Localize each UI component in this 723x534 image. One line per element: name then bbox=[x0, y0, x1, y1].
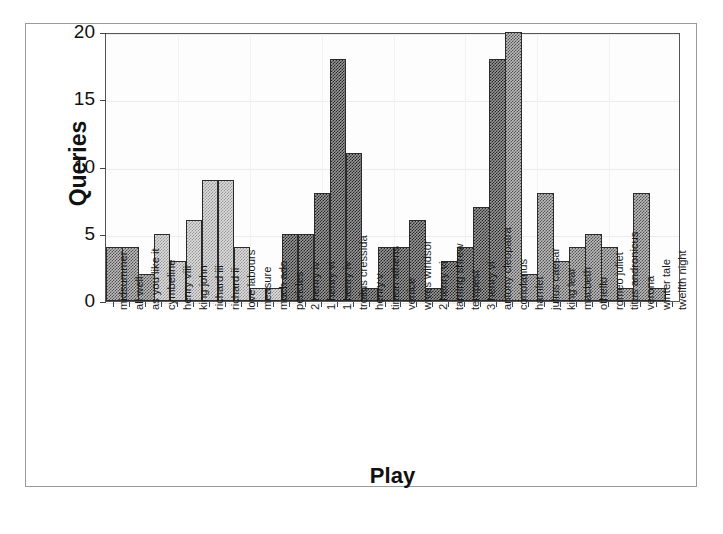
x-tick-mark bbox=[273, 302, 274, 307]
x-tick-label: macbeth bbox=[581, 267, 593, 310]
x-tick-mark bbox=[576, 302, 577, 307]
x-tick-mark bbox=[353, 302, 354, 307]
x-tick-mark bbox=[241, 302, 242, 307]
x-tick-mark bbox=[464, 302, 465, 307]
x-tick-label: timon athens bbox=[389, 246, 401, 310]
x-tick-mark bbox=[432, 302, 433, 307]
y-tick-label: 10 bbox=[51, 156, 95, 178]
x-tick-mark bbox=[480, 302, 481, 307]
x-tick-label: troilus cressida bbox=[357, 235, 369, 310]
x-tick-mark bbox=[113, 302, 114, 307]
x-tick-mark bbox=[656, 302, 657, 307]
x-tick-label: as you like it bbox=[149, 248, 161, 310]
x-tick-mark bbox=[161, 302, 162, 307]
x-axis-title: Play bbox=[105, 463, 680, 489]
x-tick-label: king lear bbox=[565, 268, 577, 310]
x-tick-label: henry viii bbox=[181, 266, 193, 310]
y-tick-label: 0 bbox=[51, 290, 95, 312]
x-tick-mark bbox=[225, 302, 226, 307]
x-tick-label: richard ii bbox=[229, 268, 241, 310]
x-tick-label: all well bbox=[133, 276, 145, 310]
x-tick-mark bbox=[145, 302, 146, 307]
x-tick-mark bbox=[193, 302, 194, 307]
x-tick-mark bbox=[337, 302, 338, 307]
x-tick-label: richard iii bbox=[213, 265, 225, 310]
y-tick-mark bbox=[100, 302, 106, 303]
x-tick-mark bbox=[624, 302, 625, 307]
x-tick-mark bbox=[672, 302, 673, 307]
x-tick-label: 3 henry vi bbox=[485, 261, 497, 310]
x-tick-label: winter tale bbox=[660, 259, 672, 310]
x-tick-mark bbox=[129, 302, 130, 307]
x-tick-mark bbox=[369, 302, 370, 307]
x-tick-mark bbox=[528, 302, 529, 307]
x-tick-mark bbox=[177, 302, 178, 307]
x-tick-mark bbox=[544, 302, 545, 307]
x-tick-mark bbox=[400, 302, 401, 307]
x-tick-mark bbox=[448, 302, 449, 307]
x-tick-label: verona bbox=[644, 276, 656, 310]
x-tick-mark bbox=[385, 302, 386, 307]
x-tick-label: 1 henry vi bbox=[325, 261, 337, 310]
x-tick-label: henry v bbox=[373, 273, 385, 310]
x-tick-label: othello bbox=[597, 277, 609, 310]
chart-figure: Queries 05101520 midsummerall wellas you… bbox=[0, 0, 723, 534]
x-tick-label: midsummer bbox=[117, 252, 129, 310]
x-tick-mark bbox=[608, 302, 609, 307]
x-tick-label: cymbeline bbox=[165, 260, 177, 310]
y-tick-label: 5 bbox=[51, 223, 95, 245]
x-tick-mark bbox=[289, 302, 290, 307]
x-tick-label: taming shrew bbox=[453, 243, 465, 310]
x-tick-mark bbox=[496, 302, 497, 307]
x-tick-label: coriolanus bbox=[517, 259, 529, 310]
y-tick-mark bbox=[100, 168, 106, 169]
x-tick-mark bbox=[512, 302, 513, 307]
x-tick-label: hamlet bbox=[533, 276, 545, 310]
x-tick-label: love labours bbox=[245, 250, 257, 310]
x-tick-label: twelfth night bbox=[676, 250, 688, 310]
x-tick-mark bbox=[416, 302, 417, 307]
x-tick-label: romeo juliet bbox=[613, 252, 625, 310]
x-tick-label: much ado bbox=[277, 261, 289, 310]
y-tick-mark bbox=[100, 33, 106, 34]
x-tick-mark bbox=[321, 302, 322, 307]
x-tick-mark bbox=[305, 302, 306, 307]
x-tick-label: tempest bbox=[469, 270, 481, 310]
y-tick-label: 15 bbox=[51, 88, 95, 110]
y-tick-mark bbox=[100, 235, 106, 236]
x-tick-mark bbox=[257, 302, 258, 307]
x-tick-label: king john bbox=[197, 265, 209, 310]
x-tick-label: measure bbox=[261, 266, 273, 310]
x-tick-mark bbox=[640, 302, 641, 307]
x-tick-label: antony cleopatra bbox=[501, 227, 513, 310]
x-tick-label: 1 henry iv bbox=[341, 261, 353, 310]
x-tick-mark bbox=[209, 302, 210, 307]
x-tick-label: 2 henry iv bbox=[309, 261, 321, 310]
x-tick-label: wives windsor bbox=[421, 240, 433, 310]
x-tick-label: pericles bbox=[293, 271, 305, 310]
x-tick-label: julius caesar bbox=[549, 248, 561, 310]
x-tick-mark bbox=[560, 302, 561, 307]
y-tick-label: 20 bbox=[51, 21, 95, 43]
x-tick-label: titus andronicus bbox=[628, 232, 640, 310]
y-tick-mark bbox=[100, 100, 106, 101]
x-tick-mark bbox=[592, 302, 593, 307]
